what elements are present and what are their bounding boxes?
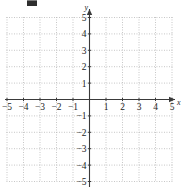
y-axis-label: y bbox=[84, 3, 89, 12]
y-axis-tick-label: 5 bbox=[82, 13, 87, 23]
coordinate-plane-figure: −5−4−3−2−112345 54321−1−2−3−4−5 x y bbox=[0, 0, 184, 190]
x-axis-tick-label: 3 bbox=[137, 102, 142, 112]
coordinate-plane-svg: −5−4−3−2−112345 54321−1−2−3−4−5 x y bbox=[0, 0, 184, 190]
y-axis-tick-label: −4 bbox=[76, 161, 86, 171]
y-axis bbox=[87, 9, 92, 187]
y-axis-tick-label: −1 bbox=[76, 111, 86, 121]
x-axis-tick-label: 4 bbox=[153, 102, 158, 112]
y-axis-tick-label: 2 bbox=[82, 62, 87, 72]
x-axis-tick-label: −3 bbox=[35, 102, 45, 112]
y-axis-tick-label: 4 bbox=[82, 29, 87, 39]
y-axis-tick-label: 3 bbox=[82, 46, 87, 56]
y-axis-tick-label: 1 bbox=[82, 79, 87, 89]
y-axis-tick-label: −2 bbox=[76, 128, 86, 138]
x-axis-tick-label: 5 bbox=[170, 102, 175, 112]
x-axis-tick-labels: −5−4−3−2−112345 bbox=[2, 102, 175, 112]
x-axis-tick-label: 1 bbox=[104, 102, 109, 112]
top-edge-scan-artifact bbox=[27, 0, 37, 6]
x-axis-tick-label: −5 bbox=[2, 102, 12, 112]
y-axis-tick-label: −5 bbox=[76, 177, 86, 187]
y-axis-tick-label: −3 bbox=[76, 144, 86, 154]
x-axis-label: x bbox=[176, 98, 181, 107]
x-axis-tick-label: 2 bbox=[120, 102, 125, 112]
x-axis-tick-label: −4 bbox=[18, 102, 28, 112]
x-axis-tick-label: −2 bbox=[51, 102, 61, 112]
